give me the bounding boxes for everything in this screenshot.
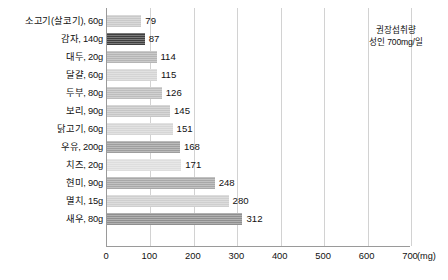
bar	[107, 141, 180, 153]
bar	[107, 69, 157, 81]
x-axis-unit-label: (mg)	[417, 248, 436, 264]
bar-category-label: 달걀, 60g	[0, 66, 103, 84]
bar-category-label: 현미, 90g	[0, 174, 103, 192]
bar-category-label: 보리, 90g	[0, 102, 103, 120]
bar-row: 보리, 90g145	[0, 102, 448, 120]
bar	[107, 51, 157, 63]
bar-category-label: 소고기(살코기), 60g	[0, 12, 103, 30]
bar-row: 치즈, 20g171	[0, 156, 448, 174]
x-tick-label-500: 500	[315, 248, 331, 264]
bar	[107, 15, 141, 27]
bar	[107, 33, 145, 45]
bar-value-label: 151	[177, 120, 193, 138]
bar-category-label: 대두, 20g	[0, 48, 103, 66]
bar-value-label: 312	[246, 210, 262, 228]
bar-value-label: 248	[219, 174, 235, 192]
bar-row: 두부, 80g126	[0, 84, 448, 102]
x-tick-label-600: 600	[359, 248, 375, 264]
bar-row: 닭고기, 60g151	[0, 120, 448, 138]
bar	[107, 195, 229, 207]
bar-category-label: 새우, 80g	[0, 210, 103, 228]
bar-row: 새우, 80g312	[0, 210, 448, 228]
bar-row: 달걀, 60g115	[0, 66, 448, 84]
bar-value-label: 79	[145, 12, 156, 30]
x-tick-label-200: 200	[185, 248, 201, 264]
calcium-content-bar-chart: 소고기(살코기), 60g79감자, 140g87대두, 20g114달걀, 6…	[0, 0, 448, 280]
bar-value-label: 115	[161, 66, 176, 84]
recommended-intake-annotation: 권장섭취량 성인 700mg/일	[348, 24, 444, 48]
x-tick-label-100: 100	[142, 248, 158, 264]
bar-value-label: 168	[184, 138, 200, 156]
bar-row: 대두, 20g114	[0, 48, 448, 66]
x-tick-label-300: 300	[228, 248, 244, 264]
bar-value-label: 87	[149, 30, 160, 48]
bar-category-label: 우유, 200g	[0, 138, 103, 156]
bar	[107, 123, 173, 135]
bar	[107, 105, 170, 117]
bar-value-label: 114	[161, 48, 176, 66]
bar-value-label: 126	[166, 84, 182, 102]
annotation-line-2: 성인 700mg/일	[348, 36, 444, 48]
bar-category-label: 두부, 80g	[0, 84, 103, 102]
x-tick-label-700: 700	[402, 248, 418, 264]
bar-row: 우유, 200g168	[0, 138, 448, 156]
bar-value-label: 280	[233, 192, 249, 210]
bar	[107, 159, 181, 171]
bar-category-label: 치즈, 20g	[0, 156, 103, 174]
bar	[107, 177, 215, 189]
bar-value-label: 171	[185, 156, 201, 174]
bar-category-label: 멸치, 15g	[0, 192, 103, 210]
bar	[107, 213, 242, 225]
x-tick-label-400: 400	[272, 248, 288, 264]
bar-category-label: 닭고기, 60g	[0, 120, 103, 138]
x-tick-label-0: 0	[103, 248, 108, 264]
bar-category-label: 감자, 140g	[0, 30, 103, 48]
bar	[107, 87, 162, 99]
x-axis: (mg) 0100200300400500600700	[0, 248, 448, 266]
bar-row: 멸치, 15g280	[0, 192, 448, 210]
bar-row: 현미, 90g248	[0, 174, 448, 192]
bar-value-label: 145	[174, 102, 190, 120]
annotation-line-1: 권장섭취량	[348, 24, 444, 36]
